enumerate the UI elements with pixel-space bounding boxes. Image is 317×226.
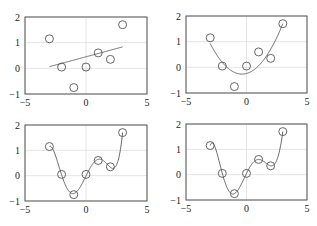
y-tick-label: 0 — [15, 170, 20, 181]
x-tick-label: −5 — [181, 96, 192, 107]
y-tick-label: 0 — [15, 63, 20, 74]
data-point-marker — [106, 55, 114, 63]
grid-lines — [186, 124, 307, 200]
x-tick-label: 5 — [305, 96, 310, 107]
x-tick-label: 0 — [244, 203, 249, 214]
y-tick-label: 1 — [15, 37, 20, 48]
y-tick-label: 2 — [15, 120, 20, 131]
subplot-4: −505−1012 — [170, 119, 309, 215]
data-point-marker — [58, 63, 66, 71]
x-tick-label: 0 — [244, 96, 249, 107]
data-point-marker — [70, 191, 78, 199]
subplot-1: −505−1012 — [9, 12, 149, 109]
x-tick-label: 0 — [84, 204, 89, 215]
figure: −505−1012−505−1012−505−1012−505−1012 — [0, 0, 317, 226]
data-point-marker — [230, 83, 238, 91]
y-tick-label: 2 — [15, 12, 20, 23]
y-tick-label: 2 — [176, 11, 181, 22]
y-tick-label: −1 — [9, 196, 20, 207]
y-tick-label: −1 — [170, 88, 181, 99]
x-tick-label: −5 — [20, 97, 31, 108]
grid-lines — [25, 125, 147, 201]
subplot-3: −505−1012 — [9, 120, 149, 216]
data-point-marker — [279, 20, 287, 28]
x-tick-label: 5 — [305, 203, 310, 214]
data-point-marker — [70, 84, 78, 92]
data-point-marker — [206, 34, 214, 42]
y-tick-label: −1 — [9, 89, 20, 100]
x-tick-label: 5 — [145, 97, 150, 108]
y-tick-label: 1 — [176, 36, 181, 47]
y-tick-label: 0 — [176, 169, 181, 180]
grid-lines — [25, 17, 147, 94]
y-tick-label: 0 — [176, 62, 181, 73]
grid-lines — [186, 16, 307, 93]
data-point-marker — [206, 142, 214, 150]
data-point-marker — [45, 143, 53, 151]
x-tick-label: 5 — [145, 204, 150, 215]
y-tick-label: −1 — [170, 195, 181, 206]
x-tick-label: −5 — [20, 204, 31, 215]
data-point-marker — [119, 21, 127, 29]
subplot-2: −505−1012 — [170, 11, 309, 108]
x-tick-label: 0 — [84, 97, 89, 108]
y-tick-label: 1 — [176, 144, 181, 155]
data-point-marker — [267, 54, 275, 62]
y-tick-label: 1 — [15, 145, 20, 156]
y-tick-label: 2 — [176, 119, 181, 130]
data-point-marker — [255, 48, 263, 56]
x-tick-label: −5 — [181, 203, 192, 214]
data-point-marker — [45, 35, 53, 43]
